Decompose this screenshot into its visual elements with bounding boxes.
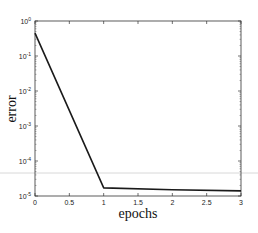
y-tick-label: 10-5 <box>19 191 31 200</box>
x-tick-label: 0 <box>33 199 37 206</box>
x-axis-label: epochs <box>119 206 158 221</box>
x-tick-label: 2 <box>170 199 174 206</box>
x-tick-label: 1.5 <box>133 199 143 206</box>
error-series-line <box>35 33 241 191</box>
error-vs-epochs-chart: 00.511.522.53 10010-110-210-310-410-5 ep… <box>0 0 258 233</box>
y-tick-label: 10-3 <box>19 121 31 130</box>
y-axis-label: error <box>4 95 19 123</box>
y-tick-label: 100 <box>20 16 31 25</box>
x-tick-label: 1 <box>102 199 106 206</box>
x-tick-label: 3 <box>239 199 243 206</box>
x-tick-label: 0.5 <box>64 199 74 206</box>
y-tick-label: 10-2 <box>19 86 31 95</box>
major-ticks <box>35 21 241 196</box>
y-tick-labels: 10010-110-210-310-410-5 <box>19 16 31 200</box>
plot-frame <box>35 21 241 196</box>
y-tick-label: 10-1 <box>19 51 31 60</box>
x-tick-labels: 00.511.522.53 <box>33 199 243 206</box>
x-tick-label: 2.5 <box>202 199 212 206</box>
y-tick-label: 10-4 <box>19 156 31 165</box>
